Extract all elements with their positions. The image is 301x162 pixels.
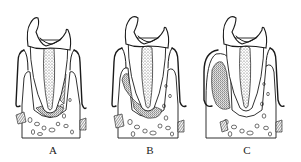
- tooth-crown: [125, 17, 168, 48]
- panel-label-c: C: [237, 144, 257, 156]
- soft-tissue-left: [114, 114, 124, 128]
- panel-c: [204, 17, 284, 138]
- panel-label-a: A: [43, 144, 63, 156]
- panel-a: [16, 18, 86, 138]
- tooth-crown: [27, 18, 70, 50]
- panel-b: [112, 17, 186, 138]
- panel-label-b: B: [140, 144, 160, 156]
- soft-tissue-left: [16, 112, 26, 124]
- soft-tissue-right: [276, 120, 282, 132]
- tooth-illustration-figure: [0, 0, 301, 162]
- soft-tissue-right: [80, 118, 86, 130]
- soft-tissue-right: [178, 120, 184, 132]
- tooth-crown: [223, 17, 266, 48]
